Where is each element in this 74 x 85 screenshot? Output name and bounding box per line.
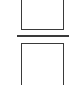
bottom-rectangle: [21, 43, 64, 85]
top-rectangle: [21, 0, 64, 30]
divider-line: [17, 35, 69, 37]
